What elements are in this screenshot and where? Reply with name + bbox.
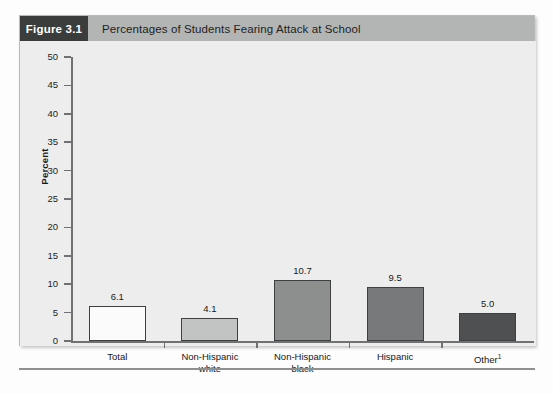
bar	[274, 280, 331, 341]
x-axis-tick	[441, 342, 443, 348]
y-axis-tick-label: 50	[26, 51, 58, 62]
x-axis-category-label: Other1	[438, 351, 538, 366]
bar	[367, 287, 424, 341]
y-axis-tick-label: 35	[26, 136, 58, 147]
bar	[459, 313, 516, 341]
y-axis-tick	[64, 56, 71, 58]
y-axis-tick	[64, 312, 71, 314]
y-axis-tick-label: 0	[26, 335, 58, 346]
bar-value-label: 5.0	[458, 298, 518, 309]
x-axis-line	[71, 341, 534, 343]
bar-value-label: 4.1	[180, 303, 240, 314]
y-axis-tick	[64, 113, 71, 115]
x-axis-category-label: Non-Hispanicwhite	[160, 351, 260, 375]
y-axis-tick	[64, 255, 71, 257]
bar	[181, 318, 238, 341]
figure-panel: Figure 3.1 Percentages of Students Feari…	[19, 15, 535, 346]
x-axis-tick	[164, 342, 166, 348]
y-axis-line	[71, 57, 73, 343]
chart-plot-area: Percent 50454035302520151050 6.14.110.79…	[20, 41, 536, 346]
bar	[89, 306, 146, 341]
y-axis-tick	[64, 198, 71, 200]
y-axis-tick-label: 40	[26, 108, 58, 119]
figure-number-tag: Figure 3.1	[20, 16, 88, 41]
x-axis-tick	[256, 342, 258, 348]
bar-value-label: 6.1	[87, 291, 147, 302]
y-axis-tick	[64, 85, 71, 87]
y-axis-tick-label: 10	[26, 278, 58, 289]
y-axis-tick-label: 5	[26, 307, 58, 318]
y-axis-tick	[64, 283, 71, 285]
footer-divider-rule	[19, 368, 535, 370]
y-axis-tick-label: 20	[26, 221, 58, 232]
bar-value-label: 10.7	[273, 265, 333, 276]
y-axis-tick	[64, 170, 71, 172]
y-axis-tick-label: 30	[26, 165, 58, 176]
x-axis-category-label: Total	[67, 351, 167, 363]
y-axis-tick	[64, 141, 71, 143]
x-axis-category-label: Non-Hispanicblack	[253, 351, 353, 375]
y-axis-tick	[64, 227, 71, 229]
y-axis-tick-label: 45	[26, 79, 58, 90]
figure-title: Percentages of Students Fearing Attack a…	[88, 16, 534, 41]
figure-header: Figure 3.1 Percentages of Students Feari…	[20, 16, 534, 41]
x-axis-category-label: Hispanic	[345, 351, 445, 363]
x-axis-tick	[349, 342, 351, 348]
y-axis-tick-label: 15	[26, 250, 58, 261]
y-axis-tick	[64, 340, 71, 342]
bar-value-label: 9.5	[365, 272, 425, 283]
y-axis-tick-label: 25	[26, 193, 58, 204]
